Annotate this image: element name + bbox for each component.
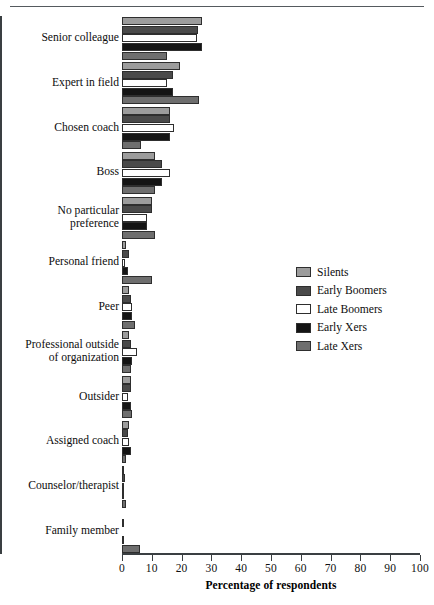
legend-swatch-icon	[296, 304, 311, 314]
x-axis-tick-label: 20	[167, 562, 197, 574]
bar	[122, 491, 124, 499]
bar	[122, 197, 152, 205]
category-label-line: Counselor/therapist	[3, 479, 119, 492]
x-axis-tick	[301, 555, 302, 561]
bar	[122, 384, 131, 392]
category-label: Family member	[3, 524, 119, 537]
x-axis-tick-label: 30	[196, 562, 226, 574]
bar	[122, 447, 131, 455]
bar	[122, 474, 125, 482]
y-axis-category-labels: Senior colleagueExpert in fieldChosen co…	[0, 0, 119, 605]
bar	[122, 17, 202, 25]
bar	[122, 250, 129, 258]
x-axis-tick-label: 70	[316, 562, 346, 574]
bar	[122, 466, 124, 474]
bar	[122, 241, 126, 249]
legend-swatch-icon	[296, 323, 311, 333]
legend-label: Late Boomers	[317, 303, 382, 316]
x-axis-tick	[122, 555, 123, 561]
legend-swatch-icon	[296, 341, 311, 351]
legend-label: Early Xers	[317, 321, 367, 334]
bar	[122, 259, 125, 267]
x-axis-tick	[420, 555, 421, 561]
category-label: Professional outsideof organization	[3, 338, 119, 364]
x-axis-tick-label: 100	[405, 562, 434, 574]
x-axis-tick-label: 10	[137, 562, 167, 574]
bar	[122, 186, 155, 194]
bar	[122, 62, 180, 70]
x-axis-tick	[211, 555, 212, 561]
bar	[122, 402, 131, 410]
bar	[122, 545, 140, 553]
bar	[122, 231, 155, 239]
bar	[122, 222, 147, 230]
bar	[122, 124, 174, 132]
category-label: Personal friend	[3, 255, 119, 268]
bar	[122, 303, 132, 311]
category-label: Senior colleague	[3, 31, 119, 44]
bar	[122, 519, 124, 527]
bar	[122, 483, 124, 491]
legend-item: Early Xers	[296, 320, 432, 336]
bar	[122, 34, 197, 42]
bar	[122, 421, 129, 429]
category-label-line: No particular	[3, 204, 119, 217]
bar	[122, 160, 162, 168]
bar	[122, 88, 173, 96]
bar	[122, 205, 152, 213]
category-label-line: Professional outside	[3, 338, 119, 351]
x-axis-tick	[360, 555, 361, 561]
bar	[122, 348, 137, 356]
category-label: Chosen coach	[3, 121, 119, 134]
category-label-line: Senior colleague	[3, 31, 119, 44]
legend-item: Early Boomers	[296, 283, 432, 299]
bar	[122, 376, 131, 384]
bar	[122, 133, 170, 141]
x-axis-tick	[182, 555, 183, 561]
category-label: Boss	[3, 165, 119, 178]
x-axis-tick	[241, 555, 242, 561]
category-label: Counselor/therapist	[3, 479, 119, 492]
legend-label: Late Xers	[317, 340, 362, 353]
category-label-line: preference	[3, 217, 119, 230]
category-label-line: Peer	[3, 300, 119, 313]
chart-legend: SilentsEarly BoomersLate BoomersEarly Xe…	[296, 264, 432, 357]
bar	[122, 169, 170, 177]
bar	[122, 500, 126, 508]
legend-label: Early Boomers	[317, 284, 387, 297]
x-axis-tick	[390, 555, 391, 561]
bar	[122, 96, 199, 104]
x-axis-tick-label: 80	[345, 562, 375, 574]
category-label-line: Personal friend	[3, 255, 119, 268]
x-axis-tick	[271, 555, 272, 561]
category-label-line: Outsider	[3, 390, 119, 403]
category-label-line: Chosen coach	[3, 121, 119, 134]
bar	[122, 295, 131, 303]
bar	[122, 178, 162, 186]
x-axis-label: Percentage of respondents	[122, 579, 420, 591]
legend-label: Silents	[317, 266, 349, 279]
x-axis-tick-label: 90	[375, 562, 405, 574]
bar	[122, 438, 129, 446]
x-axis-tick	[331, 555, 332, 561]
bar	[122, 357, 132, 365]
category-label: Expert in field	[3, 76, 119, 89]
category-label-line: Boss	[3, 165, 119, 178]
bar	[122, 214, 147, 222]
category-label: Outsider	[3, 390, 119, 403]
bar	[122, 455, 126, 463]
x-axis-tick-label: 60	[286, 562, 316, 574]
bar	[122, 365, 131, 373]
category-label: Peer	[3, 300, 119, 313]
x-axis-tick-label: 40	[226, 562, 256, 574]
x-axis-tick	[152, 555, 153, 561]
bar	[122, 26, 198, 34]
bar	[122, 410, 132, 418]
x-axis-tick-label: 50	[256, 562, 286, 574]
bar	[122, 115, 170, 123]
category-label-line: Assigned coach	[3, 434, 119, 447]
category-label-line: of organization	[3, 351, 119, 364]
bar	[122, 141, 141, 149]
bar	[122, 267, 128, 275]
bar	[122, 52, 167, 60]
